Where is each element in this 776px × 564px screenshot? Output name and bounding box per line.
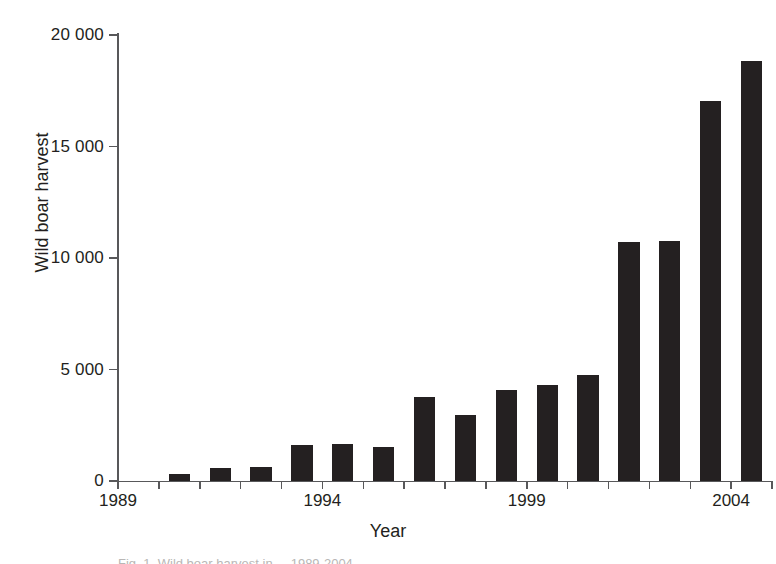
y-tick-mark — [109, 257, 117, 259]
y-tick-mark — [109, 146, 117, 148]
y-tick-label: 20 000 — [4, 26, 104, 43]
figure-caption-partial: Fig. 1. Wild boar harvest in ... 1989-20… — [118, 556, 658, 564]
x-tick-mark — [281, 481, 283, 489]
bar — [618, 242, 639, 481]
bar — [741, 61, 762, 481]
x-tick-mark — [730, 481, 732, 489]
x-tick-mark — [117, 481, 119, 489]
x-tick-mark — [199, 481, 201, 489]
y-tick-label: 10 000 — [4, 249, 104, 266]
bar — [659, 241, 680, 481]
x-tick-mark — [322, 481, 324, 489]
bar — [332, 444, 353, 481]
bar — [455, 415, 476, 481]
x-tick-mark — [567, 481, 569, 489]
x-tick-mark — [403, 481, 405, 489]
bar — [210, 468, 231, 481]
y-tick-label: 0 — [4, 472, 104, 489]
bar — [250, 467, 271, 481]
bar — [414, 397, 435, 481]
y-tick-mark — [109, 480, 117, 482]
bar — [291, 445, 312, 481]
x-tick-label: 1999 — [487, 492, 567, 509]
bar — [537, 385, 558, 481]
wild-boar-harvest-bar-chart: 05 00010 00015 00020 000 198919941999200… — [0, 0, 776, 564]
y-tick-label: 15 000 — [4, 138, 104, 155]
bar — [496, 390, 517, 481]
y-axis-title: Wild boar harvest — [32, 93, 53, 313]
bar — [700, 101, 721, 481]
y-tick-mark — [109, 369, 117, 371]
x-tick-label: 1994 — [282, 492, 362, 509]
bar — [577, 375, 598, 481]
bar — [169, 474, 190, 481]
plot-area — [118, 35, 772, 481]
y-tick-mark — [109, 34, 117, 36]
x-tick-label: 1989 — [78, 492, 158, 509]
x-tick-mark — [526, 481, 528, 489]
x-tick-mark — [690, 481, 692, 489]
x-tick-mark — [649, 481, 651, 489]
x-tick-mark — [771, 481, 773, 489]
x-tick-mark — [444, 481, 446, 489]
x-tick-label: 2004 — [691, 492, 771, 509]
x-axis-title: Year — [0, 521, 776, 542]
x-tick-mark — [158, 481, 160, 489]
y-tick-label: 5 000 — [4, 361, 104, 378]
bar — [373, 447, 394, 481]
x-tick-mark — [363, 481, 365, 489]
x-tick-mark — [608, 481, 610, 489]
x-tick-mark — [485, 481, 487, 489]
x-tick-mark — [240, 481, 242, 489]
